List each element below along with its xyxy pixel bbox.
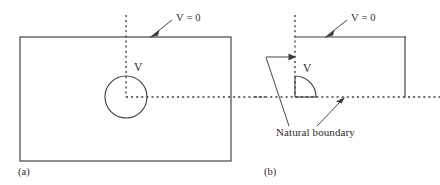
panel-b-conductor-label: V [303,63,311,75]
panel-b-natural-boundary-arrowhead-right [336,97,345,103]
panel-b-natural-boundary-label: Natural boundary [276,127,355,138]
panel-a-boundary-rectangle [20,37,231,161]
panel-b-grounded-boundary-label: V = 0 [351,13,376,24]
panel-b-caption: (b) [264,167,276,178]
panel-b-natural-boundary-leader-right [317,101,341,126]
panel-b-group [255,15,440,126]
panel-b-natural-boundary-leader-left [266,58,289,127]
panel-b-quarter-arc [295,76,316,97]
panel-a-group [20,15,265,161]
panel-a-grounded-boundary-label: V = 0 [176,13,201,24]
diagram-canvas [0,0,440,185]
panel-b-natural-boundary-arrowhead-left [289,53,297,60]
figure-container: V = 0 V (a) V = 0 V Natural boundary (b) [0,0,440,185]
panel-a-conductor-label: V [134,62,142,74]
panel-a-caption: (a) [18,167,30,178]
